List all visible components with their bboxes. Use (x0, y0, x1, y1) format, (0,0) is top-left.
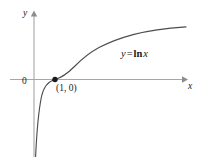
origin-label: 0 (22, 77, 27, 87)
log-function-graph-figure: y x 0 (1, 0) y=ln x (0, 0, 208, 163)
graph-canvas (0, 0, 208, 163)
intercept-point-marker (52, 77, 57, 82)
x-axis-label: x (188, 82, 192, 92)
y-axis (31, 11, 37, 158)
equation-lhs: y (121, 48, 126, 59)
y-axis-label: y (23, 9, 27, 19)
x-axis (10, 76, 188, 83)
y-axis-arrowhead-icon (31, 11, 37, 17)
equation-operator: = (126, 48, 134, 59)
equation-argument: x (143, 48, 148, 59)
curve-equation-label: y=ln x (121, 49, 148, 60)
equation-function-name: ln (134, 48, 143, 59)
intercept-point-label: (1, 0) (56, 84, 77, 94)
